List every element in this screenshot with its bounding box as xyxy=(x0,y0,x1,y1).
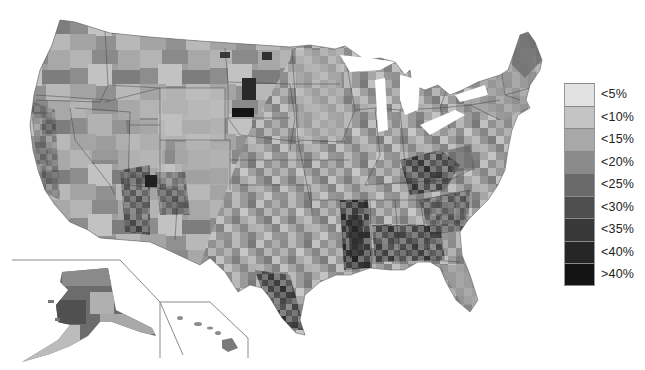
legend-swatch xyxy=(564,106,595,129)
legend-swatch xyxy=(564,128,595,151)
legend-item: <15% xyxy=(564,128,644,151)
legend-swatch xyxy=(564,196,595,219)
legend-label: <20% xyxy=(601,155,634,169)
legend-swatch xyxy=(564,263,595,286)
legend-item: <5% xyxy=(564,83,644,106)
hawaii-inset xyxy=(177,316,238,352)
legend-item: <25% xyxy=(564,173,644,196)
legend-item: >40% xyxy=(564,263,644,286)
legend-item: <35% xyxy=(564,218,644,241)
legend-swatch xyxy=(564,218,595,241)
legend-label: <30% xyxy=(601,200,634,214)
legend-swatch xyxy=(564,173,595,196)
legend-item: <20% xyxy=(564,151,644,174)
legend-label: >40% xyxy=(601,267,634,281)
legend-label: <15% xyxy=(601,132,634,146)
legend-swatch xyxy=(564,241,595,264)
legend-label: <40% xyxy=(601,245,634,259)
legend-label: <35% xyxy=(601,222,634,236)
legend-swatch xyxy=(564,83,595,106)
legend-label: <5% xyxy=(601,87,627,101)
legend-item: <30% xyxy=(564,196,644,219)
legend-label: <25% xyxy=(601,177,634,191)
legend-item: <40% xyxy=(564,241,644,264)
legend: <5% <10% <15% <20% <25% <30% <35% <40% >… xyxy=(564,83,644,286)
legend-label: <10% xyxy=(601,110,634,124)
legend-item: <10% xyxy=(564,106,644,129)
us-county-choropleth-map xyxy=(0,0,645,370)
inset-frames xyxy=(12,260,248,358)
legend-swatch xyxy=(564,151,595,174)
